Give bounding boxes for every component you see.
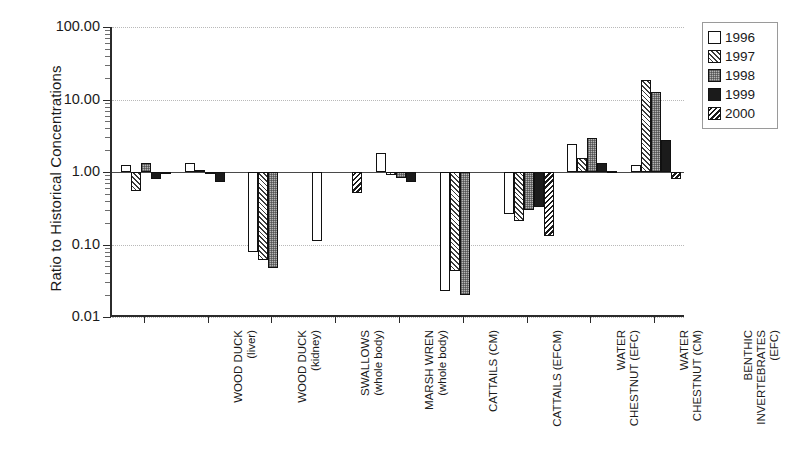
x-tick-mark [335,317,336,323]
x-tick-mark [654,317,655,323]
category-label: WATERCHESTNUT (EFC) [615,330,641,470]
category-label-line: WATER [678,330,690,370]
y-tick-mark [103,317,111,318]
legend-swatch-1999 [708,88,721,101]
bar [141,163,151,172]
bar [161,172,171,174]
legend-label: 1999 [725,87,755,102]
bar [215,172,225,182]
bar [661,140,671,172]
bar [406,172,416,182]
bar [386,172,396,175]
bar [151,172,161,179]
legend-label: 2000 [725,106,755,121]
y-tick-label: 0.01 [28,308,100,324]
x-tick-mark [144,317,145,323]
bar [514,172,524,221]
legend-swatch-1996 [708,31,721,44]
y-tick-label: 1.00 [28,163,100,179]
category-label: WATERCHESTNUT (CM) [678,330,704,470]
bar [671,172,681,179]
category-label-line: (liver) [245,330,258,470]
category-label-line: WOOD DUCK [232,330,244,403]
bar [258,172,268,260]
legend-label: 1998 [725,68,755,83]
chart-legend: 19961997199819992000 [702,22,778,129]
bar [544,172,554,236]
category-label-line: (EFC) [768,330,781,470]
bar [651,92,661,172]
bar [440,172,450,291]
category-label: MARSH WREN(whole body) [423,330,449,470]
chart-figure: Ratio to Historical Concentrations 100.0… [0,0,788,470]
bar [587,138,597,172]
bar [195,170,205,172]
category-label-line: CHESTNUT (EFC) [628,330,641,470]
bar-group [631,27,681,317]
x-tick-mark [527,317,528,323]
bar [205,172,215,174]
legend-label: 1996 [725,30,755,45]
category-label: BENTHICINVERTEBRATES(EFC) [742,330,781,470]
bar-group [312,27,362,317]
bar [352,172,362,193]
y-tick-label: 0.10 [28,236,100,252]
bar [185,163,195,172]
legend-item-1997: 1997 [708,47,773,66]
x-tick-mark [208,317,209,323]
bar [631,165,641,172]
category-label-line: WOOD DUCK [296,330,308,403]
legend-item-1999: 1999 [708,85,773,104]
bar [534,172,544,207]
category-label-line: MARSH WREN [423,330,435,410]
bar [597,163,607,172]
category-label-line: CATTAILS (CM) [487,330,499,412]
category-label-line: (kidney) [309,330,322,470]
category-label: CATTAILS (EFCM) [551,330,564,470]
legend-swatch-2000 [708,107,721,120]
category-label-line: SWALLOWS [359,330,371,396]
bar [460,172,470,295]
gridline-0.01 [112,317,684,318]
category-label-line: BENTHIC [742,330,754,380]
plot-area [110,27,684,317]
legend-swatch-1997 [708,50,721,63]
category-label-line: CATTAILS (EFCM) [551,330,563,427]
legend-label: 1997 [725,49,755,64]
category-label-line: (whole body) [372,330,385,470]
category-label: SWALLOWS(whole body) [359,330,385,470]
bar [312,172,322,241]
bar-group [440,27,490,317]
bar-group [376,27,426,317]
bar [641,80,651,172]
bar-group [504,27,554,317]
x-tick-mark [463,317,464,323]
y-tick-label: 10.00 [28,91,100,107]
x-tick-mark [271,317,272,323]
bar [268,172,278,268]
x-tick-mark [590,317,591,323]
bar [248,172,258,252]
bar [131,172,141,191]
category-label-line: CHESTNUT (CM) [691,330,704,470]
bar [567,144,577,172]
category-label-line: WATER [615,330,627,370]
bar-group [248,27,298,317]
y-tick-label: 100.00 [28,18,100,34]
category-label: WOOD DUCK(liver) [232,330,258,470]
bar [396,172,406,178]
bar-group [567,27,617,317]
bar [376,153,386,172]
category-label: CATTAILS (CM) [487,330,500,470]
legend-swatch-1998 [708,69,721,82]
bar [450,172,460,271]
legend-item-2000: 2000 [708,104,773,123]
bar [607,171,617,173]
bar [577,158,587,172]
category-label: WOOD DUCK(kidney) [296,330,322,470]
legend-item-1996: 1996 [708,28,773,47]
bar-group [185,27,235,317]
category-label-line: INVERTEBRATES [755,330,768,470]
bar [121,165,131,172]
category-label-line: (whole body) [436,330,449,470]
